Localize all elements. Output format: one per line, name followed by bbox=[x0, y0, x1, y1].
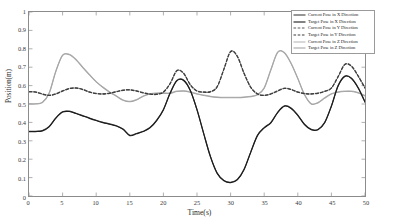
y-axis-label: Position(m) bbox=[5, 49, 13, 123]
x-tick-label: 40 bbox=[288, 199, 308, 206]
legend-line-sample-icon bbox=[293, 19, 306, 25]
legend-item-label: Target Pose in Z Direction bbox=[308, 45, 355, 51]
y-axis-tick-labels: 00.10.20.30.40.50.60.70.80.91 bbox=[0, 0, 26, 224]
legend-line-sample-icon bbox=[293, 45, 306, 51]
legend-item-label: Target Pose in Y Direction bbox=[308, 32, 355, 38]
figure: 00.10.20.30.40.50.60.70.80.91 0510152025… bbox=[0, 0, 399, 224]
legend-item[interactable]: Target Pose in Y Direction bbox=[293, 32, 372, 39]
x-tick-label: 25 bbox=[187, 199, 207, 206]
x-tick-label: 30 bbox=[221, 199, 241, 206]
series-line bbox=[29, 76, 365, 183]
legend-item[interactable]: Current Pose in X Direction bbox=[293, 12, 372, 19]
legend-item-label: Target Pose in X Direction bbox=[308, 19, 356, 25]
legend-line-sample-icon bbox=[293, 32, 306, 38]
x-tick-label: 5 bbox=[52, 199, 72, 206]
x-tick-label: 0 bbox=[18, 199, 38, 206]
x-tick-label: 10 bbox=[86, 199, 106, 206]
y-tick-label: 0.9 bbox=[4, 26, 26, 33]
legend-item[interactable]: Target Pose in Z Direction bbox=[293, 45, 372, 52]
x-tick-label: 50 bbox=[356, 199, 376, 206]
legend-item[interactable]: Current Pose in Z Direction bbox=[293, 38, 372, 45]
y-tick-label: 0.2 bbox=[4, 156, 26, 163]
legend-item[interactable]: Current Pose in Y Direction bbox=[293, 25, 372, 32]
y-tick-label: 1 bbox=[4, 8, 26, 15]
series-line bbox=[29, 51, 365, 95]
x-tick-label: 45 bbox=[322, 199, 342, 206]
y-tick-label: 0.3 bbox=[4, 138, 26, 145]
legend-item[interactable]: Target Pose in X Direction bbox=[293, 19, 372, 26]
legend-line-sample-icon bbox=[293, 39, 306, 45]
series-line bbox=[29, 50, 365, 104]
x-tick-label: 15 bbox=[119, 199, 139, 206]
chart-legend: Current Pose in X DirectionTarget Pose i… bbox=[291, 10, 375, 54]
legend-line-sample-icon bbox=[293, 12, 306, 18]
series-line bbox=[29, 76, 365, 183]
legend-item-label: Current Pose in Y Direction bbox=[308, 25, 358, 31]
legend-line-sample-icon bbox=[293, 25, 306, 31]
x-axis-label: Time(s) bbox=[0, 208, 399, 217]
y-tick-label: 0.1 bbox=[4, 175, 26, 182]
x-tick-label: 20 bbox=[153, 199, 173, 206]
series-line bbox=[29, 51, 365, 105]
legend-item-label: Current Pose in Z Direction bbox=[308, 39, 358, 45]
x-tick-label: 35 bbox=[255, 199, 275, 206]
legend-item-label: Current Pose in X Direction bbox=[308, 12, 358, 18]
